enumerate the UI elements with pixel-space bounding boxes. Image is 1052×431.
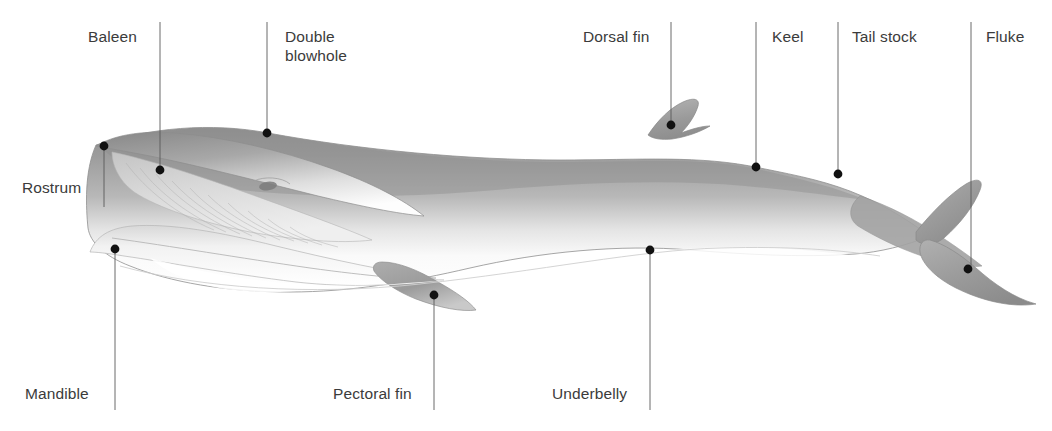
callout-label-line: Rostrum — [22, 178, 81, 197]
callout-label-line: Fluke — [986, 27, 1024, 46]
callout-marker-fluke[interactable] — [964, 265, 973, 274]
callout-markers-group — [100, 121, 973, 300]
callout-label-rostrum: Rostrum — [22, 178, 81, 197]
callout-marker-pectoral-fin[interactable] — [430, 291, 439, 300]
callout-label-tail-stock: Tail stock — [852, 27, 917, 46]
callout-label-line: Dorsal fin — [583, 27, 649, 46]
callout-label-line: Underbelly — [552, 384, 627, 403]
callout-label-fluke: Fluke — [986, 27, 1024, 46]
callout-label-keel: Keel — [772, 27, 803, 46]
callout-label-dorsal-fin: Dorsal fin — [583, 27, 649, 46]
callout-label-line: Tail stock — [852, 27, 917, 46]
callout-marker-keel[interactable] — [752, 163, 761, 172]
callout-marker-baleen[interactable] — [156, 166, 165, 175]
callout-label-line: Baleen — [88, 27, 137, 46]
callout-label-pectoral-fin: Pectoral fin — [333, 384, 412, 403]
callout-marker-mandible[interactable] — [111, 245, 120, 254]
whale-anatomy-diagram: BaleenDoubleblowholeDorsal finKeelTail s… — [0, 0, 1052, 431]
callout-label-line: Pectoral fin — [333, 384, 412, 403]
callout-label-underbelly: Underbelly — [552, 384, 627, 403]
callout-marker-dorsal-fin[interactable] — [667, 121, 676, 130]
callout-label-baleen: Baleen — [88, 27, 137, 46]
callout-marker-rostrum[interactable] — [100, 142, 109, 151]
callout-layer — [0, 0, 1052, 431]
callout-label-line: Mandible — [25, 384, 89, 403]
callout-label-line: Keel — [772, 27, 803, 46]
callout-label-line: blowhole — [285, 46, 347, 65]
callout-marker-tail-stock[interactable] — [834, 170, 843, 179]
callout-label-double-blowhole: Doubleblowhole — [285, 27, 347, 65]
callout-marker-underbelly[interactable] — [646, 246, 655, 255]
leader-lines-group — [104, 22, 971, 410]
callout-label-line: Double — [285, 27, 347, 46]
callout-marker-double-blowhole[interactable] — [263, 129, 272, 138]
callout-label-mandible: Mandible — [25, 384, 89, 403]
